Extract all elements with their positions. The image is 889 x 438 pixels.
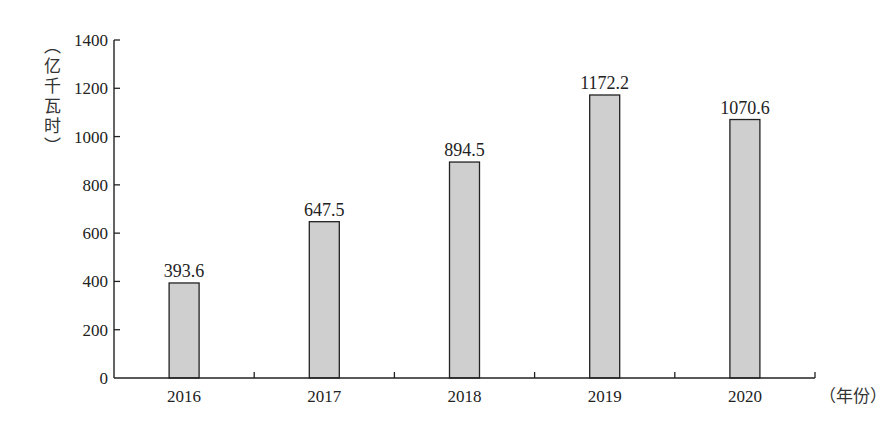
y-axis-ticks: 0200400600800100012001400: [74, 31, 120, 388]
data-label-2020: 1070.6: [720, 98, 770, 118]
bar-2017: [309, 222, 339, 378]
y-tick-label: 800: [83, 176, 109, 195]
y-tick-label: 400: [83, 272, 109, 291]
x-axis-ticks: 20162017201820192020: [167, 372, 815, 406]
y-title-char: 瓦: [44, 96, 61, 116]
x-axis-title: （年份）: [819, 386, 887, 406]
bar-chart: 0200400600800100012001400 20162017201820…: [0, 0, 889, 438]
y-title-char: 千: [44, 76, 61, 96]
y-axis-title: ︵亿千瓦时︶: [44, 36, 61, 156]
bars: 393.6647.5894.51172.21070.6: [164, 73, 770, 378]
bar-2016: [169, 283, 199, 378]
data-label-2018: 894.5: [444, 140, 485, 160]
y-title-char: 时: [44, 116, 61, 136]
bar-2020: [730, 120, 760, 378]
y-tick-label: 200: [83, 321, 109, 340]
y-tick-label: 600: [83, 224, 109, 243]
data-label-2019: 1172.2: [580, 73, 629, 93]
data-label-2017: 647.5: [304, 200, 345, 220]
y-tick-label: 1200: [74, 79, 108, 98]
x-tick-label-2017: 2017: [307, 387, 342, 406]
x-tick-label-2018: 2018: [448, 387, 482, 406]
y-title-char: ︵: [44, 36, 61, 56]
bar-2018: [450, 162, 480, 378]
y-title-char: ︶: [44, 136, 61, 156]
y-tick-label: 0: [100, 369, 109, 388]
x-tick-label-2016: 2016: [167, 387, 201, 406]
data-label-2016: 393.6: [164, 261, 205, 281]
bar-2019: [590, 95, 620, 378]
y-tick-label: 1000: [74, 128, 108, 147]
y-tick-label: 1400: [74, 31, 108, 50]
y-title-char: 亿: [44, 56, 61, 76]
x-tick-label-2019: 2019: [588, 387, 622, 406]
x-tick-label-2020: 2020: [728, 387, 762, 406]
